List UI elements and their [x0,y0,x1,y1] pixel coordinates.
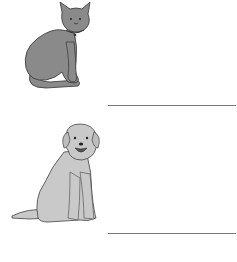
answer-line-1[interactable] [108,105,236,106]
cat-illustration [16,2,96,92]
answer-line-2[interactable] [108,233,236,234]
dog-illustration [8,122,103,225]
